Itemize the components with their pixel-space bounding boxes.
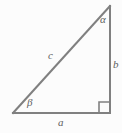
angle-alpha-label: α — [100, 14, 106, 25]
side-c-label: c — [48, 50, 53, 61]
side-a-label: a — [58, 117, 64, 128]
right-triangle-figure: α β c b a — [0, 0, 122, 133]
angle-beta-label: β — [27, 97, 32, 108]
side-b-label: b — [113, 59, 119, 70]
right-angle-marker-icon — [99, 102, 110, 113]
